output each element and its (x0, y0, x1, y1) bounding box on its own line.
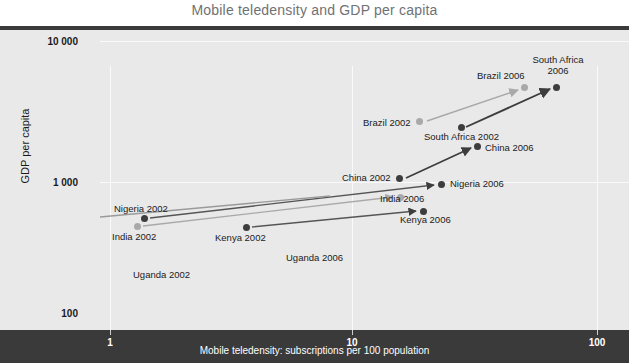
gridline-x-1 (110, 66, 111, 330)
point-south-africa-2006[interactable] (553, 84, 560, 91)
label-brazil-2002: Brazil 2002 (363, 117, 411, 128)
point-brazil-2002[interactable] (416, 118, 423, 125)
label-india-2006: India 2006 (380, 193, 424, 204)
gridline-x-10 (352, 66, 353, 330)
y-tick-10000: 10 000 (18, 36, 78, 47)
point-kenya-2002[interactable] (243, 224, 250, 231)
point-nigeria-2006[interactable] (438, 181, 445, 188)
y-tick-100: 100 (18, 308, 78, 319)
point-brazil-2006[interactable] (521, 84, 528, 91)
x-tick-mark-100 (597, 330, 598, 335)
point-china-2002[interactable] (396, 175, 403, 182)
point-nigeria-2002[interactable] (141, 215, 148, 222)
y-axis-title: GDP per capita (19, 91, 31, 201)
label-nigeria-2002: Nigeria 2002 (114, 203, 168, 214)
label-south-africa-2006: South Africa 2006 (518, 54, 598, 76)
gridline-y-10000 (100, 41, 629, 42)
chart-root: Mobile teledensity and GDP per capita 10… (0, 0, 629, 363)
label-china-2002: China 2002 (342, 172, 391, 183)
point-india-2002[interactable] (134, 223, 141, 230)
x-tick-mark-1 (110, 330, 111, 335)
label-kenya-2002: Kenya 2002 (215, 232, 266, 243)
point-south-africa-2002[interactable] (458, 124, 465, 131)
label-kenya-2006: Kenya 2006 (400, 214, 451, 225)
label-uganda-2002: Uganda 2002 (133, 269, 190, 280)
gridline-x-100 (597, 66, 598, 330)
label-uganda-2006: Uganda 2006 (286, 252, 343, 263)
x-tick-mark-10 (352, 330, 353, 335)
label-nigeria-2006: Nigeria 2006 (450, 178, 504, 189)
point-china-2006[interactable] (474, 143, 481, 150)
chart-title: Mobile teledensity and GDP per capita (0, 2, 629, 18)
label-south-africa-2002: South Africa 2002 (424, 131, 499, 142)
label-china-2006: China 2006 (485, 142, 534, 153)
label-india-2002: India 2002 (112, 231, 156, 242)
x-axis-title: Mobile teledensity: subscriptions per 10… (0, 345, 629, 356)
